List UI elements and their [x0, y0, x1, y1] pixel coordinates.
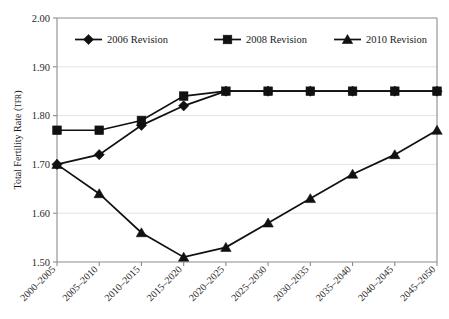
- legend-label: 2010 Revision: [366, 34, 428, 45]
- y-tick-label: 1.80: [32, 110, 50, 121]
- y-tick-label: 1.70: [32, 159, 50, 170]
- data-point-square-marker: [222, 87, 231, 96]
- data-point-square-marker: [223, 35, 232, 44]
- y-tick-label: 1.60: [32, 208, 50, 219]
- data-point-square-marker: [264, 87, 273, 96]
- data-point-square-marker: [95, 126, 104, 135]
- legend-entry-2008-revision: 2008 Revision: [214, 34, 308, 45]
- data-point-square-marker: [390, 87, 399, 96]
- legend-entry-2006-revision: 2006 Revision: [75, 34, 169, 45]
- y-axis-title: Total Fertility Rate (TFR): [12, 90, 24, 189]
- data-point-square-marker: [348, 87, 357, 96]
- y-tick-label: 1.90: [32, 62, 50, 73]
- legend-label: 2008 Revision: [246, 34, 308, 45]
- legend-label: 2006 Revision: [107, 34, 169, 45]
- chart-legend: 2006 Revision2008 Revision2010 Revision: [75, 34, 428, 45]
- data-point-square-marker: [306, 87, 315, 96]
- y-axis-title-text: Total Fertility Rate (TFR): [12, 90, 24, 189]
- data-point-square-marker: [53, 126, 62, 135]
- line-chart: 1.501.601.701.801.902.00 2000–20052005–2…: [0, 0, 449, 319]
- legend-entry-2010-revision: 2010 Revision: [334, 34, 428, 45]
- y-tick-label: 2.00: [32, 13, 50, 24]
- data-point-square-marker: [433, 87, 442, 96]
- data-point-square-marker: [179, 92, 188, 101]
- chart-container: 1.501.601.701.801.902.00 2000–20052005–2…: [0, 0, 449, 319]
- svg-text:Total Fertility Rate (TFR): Total Fertility Rate (TFR): [12, 90, 24, 189]
- data-point-square-marker: [137, 116, 146, 125]
